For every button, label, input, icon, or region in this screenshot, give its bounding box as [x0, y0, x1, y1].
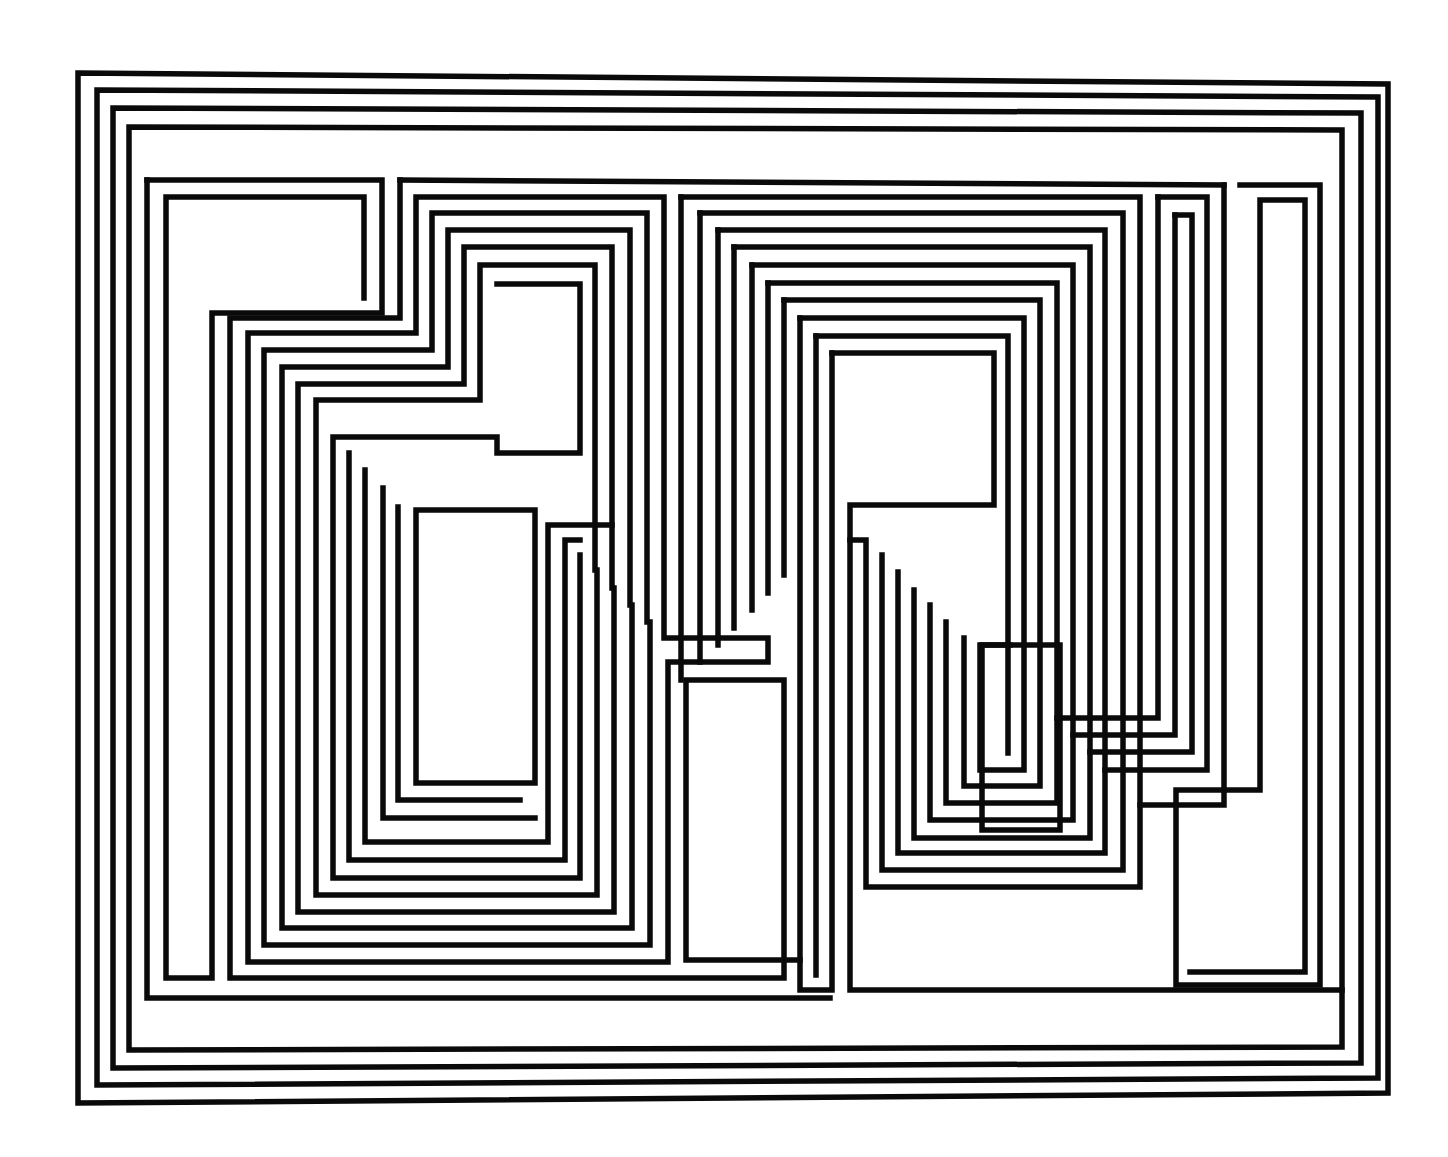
- artwork-canvas: [0, 0, 1448, 1157]
- center-group: [681, 197, 1342, 990]
- maze-artwork: [0, 0, 1448, 1157]
- left-steps: [230, 180, 800, 978]
- frame-2: [97, 90, 1378, 1085]
- right-group: [1057, 185, 1320, 985]
